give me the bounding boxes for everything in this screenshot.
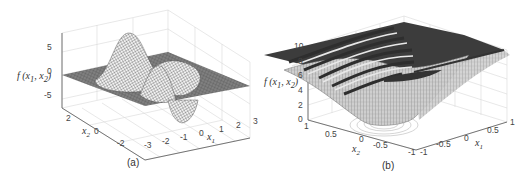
x-tick: 0.5 — [487, 126, 499, 135]
y-tick: 2 — [66, 114, 71, 123]
x-tick: -0.5 — [436, 140, 451, 149]
z-tick: -5 — [44, 91, 52, 100]
surface-plot-b: 10 8 6 4 2 0 f (x1, x2) 1 0.5 0 -0.5 -1 … — [264, 0, 528, 182]
x-tick: 1 — [510, 118, 515, 127]
panel-caption-a: (a) — [127, 157, 139, 168]
x-tick: -1 — [420, 148, 428, 157]
panel-caption-b: (b) — [382, 160, 394, 171]
x-tick: 2 — [236, 121, 241, 130]
x-tick: -2 — [162, 137, 170, 146]
x-tick: 1 — [219, 125, 224, 134]
y-tick: -0.5 — [373, 141, 388, 150]
surface-plot-a: 5 0 -5 f (x1, x2) 2 0 -2 x2 -3 -2 -1 0 1… — [0, 0, 264, 182]
plot-b-canvas — [264, 0, 528, 182]
y-tick: -2 — [117, 139, 125, 148]
z-tick: 2 — [298, 101, 303, 110]
y-tick: 0 — [94, 127, 99, 136]
z-tick: 4 — [298, 86, 303, 95]
z-tick: 10 — [294, 42, 303, 51]
x-tick: 0 — [199, 129, 204, 138]
y-tick: 1 — [304, 122, 309, 131]
x-tick: -3 — [144, 141, 152, 150]
x-axis-label: x1 — [207, 131, 215, 145]
y-axis-label: x2 — [82, 125, 90, 139]
plot-a-canvas — [0, 0, 264, 182]
y-tick: -1 — [408, 148, 416, 157]
z-tick: 6 — [298, 71, 303, 80]
x-axis-label: x1 — [475, 137, 483, 151]
x-tick: 3 — [253, 117, 258, 126]
x-tick: -1 — [180, 133, 188, 142]
y-tick: 0.5 — [325, 130, 337, 139]
z-tick: 0 — [298, 115, 303, 124]
z-axis-label: f (x1, x2) — [17, 70, 51, 84]
x-tick: 0 — [464, 134, 469, 143]
z-tick: 8 — [298, 57, 303, 66]
y-axis-label: x2 — [352, 143, 360, 157]
z-tick: 5 — [47, 43, 52, 52]
z-axis-label: f (x1, x2) — [264, 76, 298, 90]
